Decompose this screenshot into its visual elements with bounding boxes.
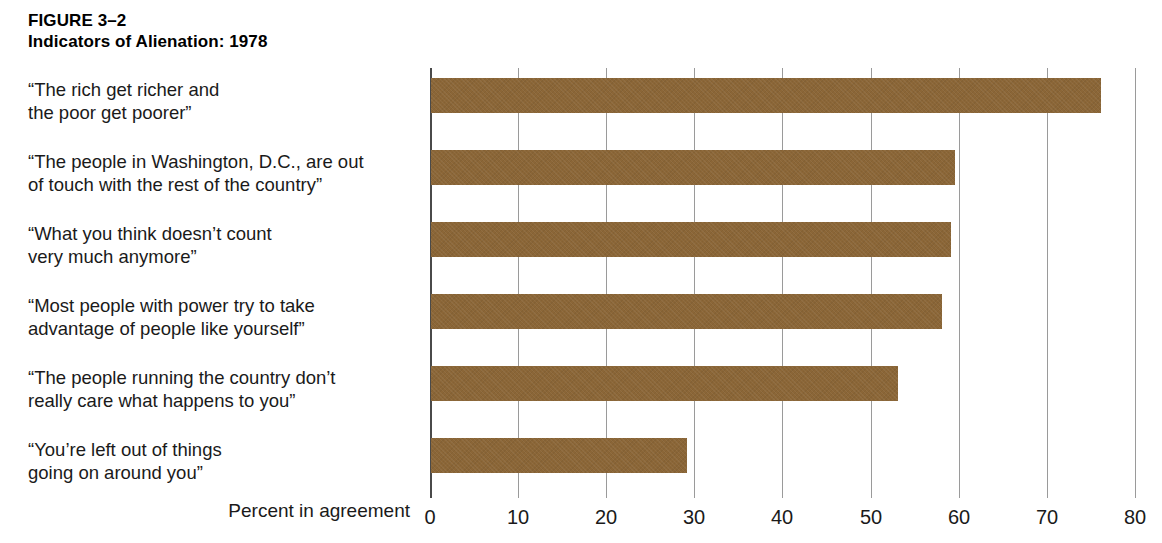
bar-6	[431, 438, 687, 473]
figure-container: FIGURE 3–2 Indicators of Alienation: 197…	[0, 0, 1162, 543]
bar-1	[431, 78, 1101, 113]
y-axis-line	[430, 68, 432, 498]
bar-2	[431, 150, 955, 185]
figure-title: Indicators of Alienation: 1978	[28, 31, 428, 52]
bar-5	[431, 366, 898, 401]
gridline-40	[782, 68, 783, 498]
xtick-label-0: 0	[424, 506, 435, 528]
gridline-50	[871, 68, 872, 498]
gridline-80	[1135, 68, 1136, 498]
xtick-label-60: 60	[948, 506, 970, 528]
category-label-2: “The people in Washington, D.C., are out…	[28, 150, 424, 196]
xtick-label-20: 20	[595, 506, 617, 528]
bar-4	[431, 294, 942, 329]
xtick-label-80: 80	[1124, 506, 1146, 528]
gridline-30	[694, 68, 695, 498]
bar-3	[431, 222, 951, 257]
figure-heading: FIGURE 3–2 Indicators of Alienation: 197…	[28, 10, 428, 52]
category-label-1: “The rich get richer and the poor get po…	[28, 78, 424, 124]
xtick-label-10: 10	[507, 506, 529, 528]
gridline-70	[1047, 68, 1048, 498]
category-label-5: “The people running the country don’t re…	[28, 366, 424, 412]
xtick-label-30: 30	[683, 506, 705, 528]
x-axis-title: Percent in agreement	[148, 500, 410, 522]
xtick-label-70: 70	[1036, 506, 1058, 528]
figure-number: FIGURE 3–2	[28, 10, 428, 31]
gridline-60	[959, 68, 960, 498]
xtick-label-50: 50	[860, 506, 882, 528]
category-label-4: “Most people with power try to take adva…	[28, 294, 424, 340]
plot-area: 0 10 20 30 40 50 60 70 80	[430, 68, 1135, 498]
category-label-3: “What you think doesn’t count very much …	[28, 222, 424, 268]
gridline-20	[606, 68, 607, 498]
category-label-6: “You’re left out of things going on arou…	[28, 438, 424, 484]
xtick-label-40: 40	[771, 506, 793, 528]
gridline-10	[518, 68, 519, 498]
